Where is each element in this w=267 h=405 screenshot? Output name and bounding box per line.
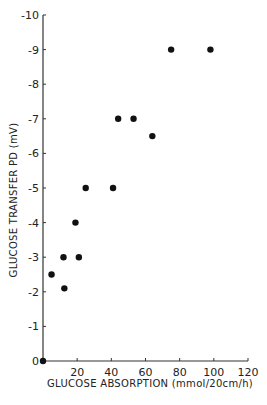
- data-point: [207, 46, 213, 52]
- y-tick-label: -7: [28, 113, 39, 126]
- data-point: [72, 219, 78, 225]
- y-tick-label: -4: [28, 217, 39, 230]
- data-point: [76, 254, 82, 260]
- data-point: [83, 185, 89, 191]
- y-tick-label: -5: [28, 182, 39, 195]
- data-point: [60, 254, 66, 260]
- data-points: [40, 46, 214, 364]
- x-axis-title: GLUCOSE ABSORPTION (mmol/20cm/h): [47, 378, 253, 389]
- data-point: [40, 358, 46, 364]
- y-tick-label: 0: [32, 355, 39, 368]
- data-point: [61, 285, 67, 291]
- y-tick-label: -3: [28, 251, 39, 264]
- data-point: [115, 116, 121, 122]
- y-tick-label: -6: [28, 147, 39, 160]
- scatter-chart: 0-1-2-3-4-5-6-7-8-9-1020406080100120 GLU…: [0, 0, 267, 405]
- axes: 0-1-2-3-4-5-6-7-8-9-1020406080100120: [21, 9, 258, 379]
- y-tick-label: -1: [28, 320, 39, 333]
- data-point: [168, 46, 174, 52]
- data-point: [149, 133, 155, 139]
- y-tick-label: -8: [28, 78, 39, 91]
- y-tick-label: -9: [28, 44, 39, 57]
- y-tick-label: -2: [28, 286, 39, 299]
- y-axis-title: GLUCOSE TRANSFER PD (mV): [8, 123, 19, 278]
- data-point: [110, 185, 116, 191]
- data-point: [48, 271, 54, 277]
- y-tick-label: -10: [21, 9, 39, 22]
- data-point: [130, 116, 136, 122]
